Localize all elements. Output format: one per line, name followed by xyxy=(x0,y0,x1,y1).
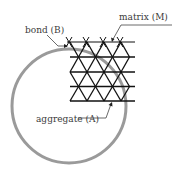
aggregate-circle-outline xyxy=(12,49,126,163)
matrix-grid-line xyxy=(113,42,122,57)
matrix-grid-line xyxy=(96,87,105,102)
matrix-grid-line xyxy=(87,57,96,72)
matrix-grid-line xyxy=(79,87,88,102)
matrix-grid-line xyxy=(96,42,105,57)
aggregate-label: aggregate (A) xyxy=(36,115,99,124)
matrix-leader-line xyxy=(112,25,172,41)
matrix-grid-line xyxy=(96,72,105,87)
matrix-grid-line xyxy=(70,57,79,72)
matrix-grid-line xyxy=(70,72,79,87)
matrix-grid-line xyxy=(79,57,88,72)
matrix-label: matrix (M) xyxy=(119,13,168,22)
matrix-grid-line xyxy=(87,87,96,102)
matrix-grid-line xyxy=(104,87,113,102)
matrix-grid-line xyxy=(87,72,96,87)
matrix-grid-line xyxy=(70,87,79,102)
matrix-grid-line xyxy=(121,42,130,57)
matrix-grid-line xyxy=(121,57,130,72)
aggregate-circle xyxy=(12,49,126,163)
matrix-grid-line xyxy=(79,72,88,87)
bond-leader-line xyxy=(47,35,66,46)
diagram-canvas: matrix (M) bond (B) aggregate (A) xyxy=(0,0,183,174)
matrix-grid-line xyxy=(104,72,113,87)
matrix-grid-line xyxy=(113,87,122,102)
matrix-grid-line xyxy=(104,42,113,57)
bond-label: bond (B) xyxy=(25,26,64,35)
